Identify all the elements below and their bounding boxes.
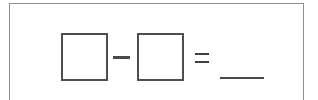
minus-sign-icon: − xyxy=(113,56,130,59)
equals-sign-bar-top xyxy=(195,53,209,55)
operand-box-1-value xyxy=(62,34,63,35)
answer-blank-value xyxy=(219,76,220,77)
minus-sign-glyph: − xyxy=(112,55,113,56)
answer-blank[interactable] xyxy=(220,77,264,79)
operand-box-2-value xyxy=(138,34,139,35)
operand-box-1[interactable] xyxy=(61,33,108,81)
problem-frame: □ − □ = ___ − = xyxy=(9,3,304,100)
worksheet-canvas: □ − □ = ___ − = xyxy=(0,0,318,100)
equals-sign-icon: = xyxy=(195,53,209,64)
problem-expression-text: □ − □ = ___ xyxy=(9,3,10,4)
equals-sign-bar-bottom xyxy=(195,61,209,63)
operand-box-2[interactable] xyxy=(137,33,184,81)
